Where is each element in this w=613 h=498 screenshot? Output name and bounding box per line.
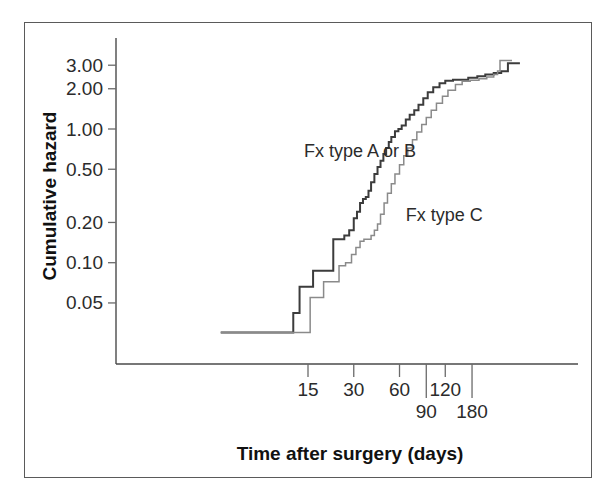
x-tick-group: 15306090120180: [297, 364, 487, 422]
x-tick-label: 30: [343, 379, 364, 400]
x-tick-label: 90: [416, 401, 437, 422]
y-tick-label: 0.50: [66, 159, 103, 180]
x-axis-title: Time after surgery (days): [237, 443, 464, 464]
y-tick-label: 0.20: [66, 212, 103, 233]
x-tick-label: 60: [389, 379, 410, 400]
x-tick-label: 120: [429, 379, 461, 400]
x-tick-label: 180: [456, 401, 488, 422]
y-tick-label: 3.00: [66, 55, 103, 76]
series-line-1: [221, 63, 520, 332]
series-label-2: Fx type C: [406, 205, 483, 225]
y-tick-label: 0.10: [66, 252, 103, 273]
series-group: [221, 61, 520, 333]
x-tick-label: 15: [297, 379, 318, 400]
y-tick-label: 2.00: [66, 78, 103, 99]
series-label-1: Fx type A or B: [304, 141, 416, 161]
axes-group: [116, 38, 578, 364]
y-tick-label: 0.05: [66, 292, 103, 313]
figure-canvas: 0.050.100.200.501.002.003.00 15306090120…: [0, 0, 613, 498]
series-label-group: Fx type A or BFx type C: [304, 141, 483, 225]
y-axis-title: Cumulative hazard: [39, 112, 60, 281]
y-tick-label: 1.00: [66, 119, 103, 140]
y-tick-group: 0.050.100.200.501.002.003.00: [66, 55, 116, 314]
cumulative-hazard-chart: 0.050.100.200.501.002.003.00 15306090120…: [0, 0, 613, 498]
